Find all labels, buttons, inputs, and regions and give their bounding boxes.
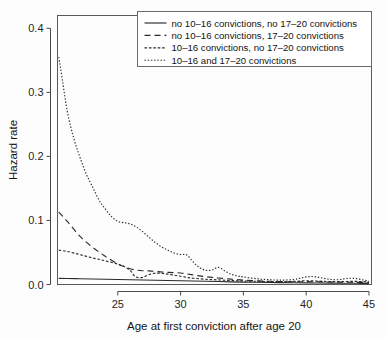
legend-label-2: 10–16 convictions, no 17–20 convictions: [172, 42, 344, 53]
hazard-rate-figure: 0.00.10.20.30.4 2530354045 Hazard rate A…: [0, 0, 387, 339]
hazard-rate-chart: 0.00.10.20.30.4 2530354045 Hazard rate A…: [0, 0, 387, 339]
legend-label-1: no 10–16 convictions, 17–20 convictions: [172, 30, 344, 41]
y-tick-label: 0.3: [28, 86, 43, 98]
x-tick-label: 30: [174, 298, 186, 310]
y-axis: 0.00.10.20.30.4: [28, 22, 50, 290]
chart-legend: no 10–16 convictions, no 17–20 convictio…: [138, 12, 372, 67]
data-series-group: [59, 57, 369, 283]
x-tick-label: 40: [300, 298, 312, 310]
x-tick-label: 25: [112, 298, 124, 310]
legend-label-0: no 10–16 convictions, no 17–20 convictio…: [172, 18, 358, 29]
series-line-0: [59, 278, 369, 283]
y-axis-title: Hazard rate: [7, 120, 19, 180]
series-line-3: [59, 57, 369, 281]
x-tick-label: 35: [237, 298, 249, 310]
y-tick-label: 0.0: [28, 279, 43, 291]
y-tick-label: 0.2: [28, 150, 43, 162]
series-line-1: [59, 212, 369, 282]
legend-label-3: 10–16 and 17–20 convictions: [172, 55, 297, 66]
y-tick-label: 0.1: [28, 214, 43, 226]
x-tick-label: 45: [363, 298, 375, 310]
series-line-2: [59, 250, 369, 282]
y-tick-label: 0.4: [28, 22, 43, 34]
x-axis-title: Age at first conviction after age 20: [127, 320, 301, 332]
x-axis: 2530354045: [112, 292, 375, 310]
